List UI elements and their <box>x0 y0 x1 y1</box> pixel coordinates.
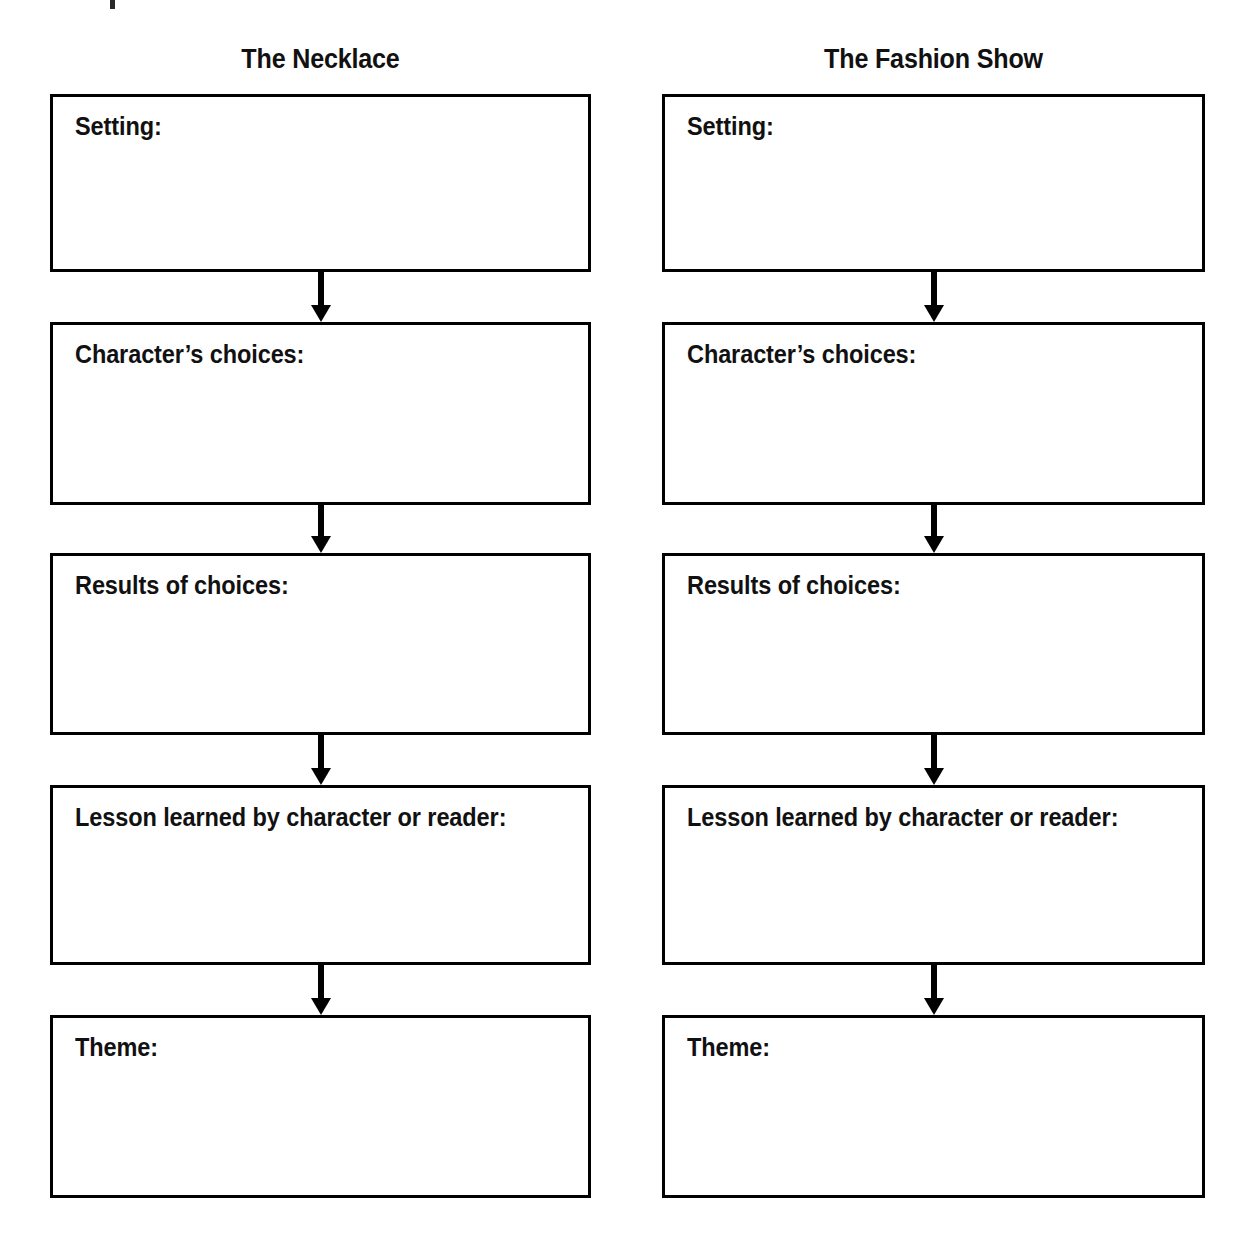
flow-box-writing-area[interactable] <box>56 377 585 499</box>
arrow-shaft <box>318 505 324 536</box>
flow-box-label: Results of choices: <box>75 570 289 600</box>
flow-box-lesson-learned-right[interactable]: Lesson learned by character or reader: <box>662 785 1205 965</box>
flow-box-lesson-learned-left[interactable]: Lesson learned by character or reader: <box>50 785 591 965</box>
flow-box-writing-area[interactable] <box>56 1070 585 1192</box>
flow-box-characters-choices-left[interactable]: Character’s choices: <box>50 322 591 505</box>
flow-box-characters-choices-right[interactable]: Character’s choices: <box>662 322 1205 505</box>
arrow-head <box>311 536 331 553</box>
flow-box-writing-area[interactable] <box>56 608 585 729</box>
flow-box-results-of-choices-left[interactable]: Results of choices: <box>50 553 591 735</box>
arrow-head <box>311 305 331 322</box>
arrow-head <box>924 305 944 322</box>
flow-box-label: Results of choices: <box>687 570 901 600</box>
column-title-right: The Fashion Show <box>681 44 1186 74</box>
flow-box-label: Setting: <box>75 111 162 141</box>
arrow-shaft <box>318 272 324 305</box>
flow-box-writing-area[interactable] <box>668 149 1199 266</box>
arrow-head <box>924 768 944 785</box>
arrow-head <box>311 998 331 1015</box>
flow-box-writing-area[interactable] <box>56 840 585 959</box>
down-arrow-icon <box>924 272 944 322</box>
flow-box-writing-area[interactable] <box>668 1070 1199 1192</box>
flow-box-setting-left[interactable]: Setting: <box>50 94 591 272</box>
down-arrow-icon <box>311 272 331 322</box>
arrow-head <box>311 768 331 785</box>
arrow-head <box>924 536 944 553</box>
flow-box-writing-area[interactable] <box>668 377 1199 499</box>
flow-box-label: Setting: <box>687 111 774 141</box>
flow-box-writing-area[interactable] <box>668 608 1199 729</box>
arrow-shaft <box>318 735 324 768</box>
flow-box-writing-area[interactable] <box>56 149 585 266</box>
flow-box-label: Theme: <box>687 1032 770 1062</box>
flow-box-label: Lesson learned by character or reader: <box>687 802 1118 832</box>
arrow-shaft <box>931 735 937 768</box>
story-comparison-worksheet: The Necklace Setting: Character’s choice… <box>0 0 1244 1238</box>
down-arrow-icon <box>924 735 944 785</box>
down-arrow-icon <box>311 735 331 785</box>
story-column-right: The Fashion Show Setting: Character’s ch… <box>662 0 1205 1238</box>
column-title-left: The Necklace <box>69 44 572 74</box>
down-arrow-icon <box>924 965 944 1015</box>
arrow-shaft <box>931 272 937 305</box>
down-arrow-icon <box>924 505 944 553</box>
flow-box-theme-left[interactable]: Theme: <box>50 1015 591 1198</box>
flow-box-label: Theme: <box>75 1032 158 1062</box>
story-column-left: The Necklace Setting: Character’s choice… <box>50 0 591 1238</box>
arrow-shaft <box>318 965 324 998</box>
flow-box-label: Lesson learned by character or reader: <box>75 802 506 832</box>
arrow-shaft <box>931 505 937 536</box>
down-arrow-icon <box>311 965 331 1015</box>
flow-box-label: Character’s choices: <box>687 339 916 369</box>
arrow-shaft <box>931 965 937 998</box>
flow-box-setting-right[interactable]: Setting: <box>662 94 1205 272</box>
flow-box-label: Character’s choices: <box>75 339 304 369</box>
down-arrow-icon <box>311 505 331 553</box>
flow-box-theme-right[interactable]: Theme: <box>662 1015 1205 1198</box>
arrow-head <box>924 998 944 1015</box>
flow-box-writing-area[interactable] <box>668 840 1199 959</box>
flow-box-results-of-choices-right[interactable]: Results of choices: <box>662 553 1205 735</box>
